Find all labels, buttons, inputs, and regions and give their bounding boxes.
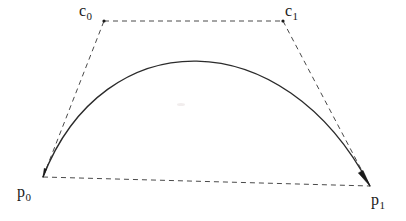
bezier-diagram-svg — [0, 0, 406, 221]
control-point-c0-dot — [102, 19, 105, 22]
label-p0-subscript: 0 — [26, 191, 32, 203]
polygon-segment-c1-p1 — [283, 21, 370, 186]
label-c1-subscript: 1 — [293, 10, 299, 22]
label-c0: c0 — [79, 3, 92, 19]
bezier-curve — [43, 61, 370, 186]
scan-artifact-speck — [177, 103, 185, 106]
arrowhead-at-p1 — [358, 170, 370, 186]
bezier-figure: c0 c1 p0 p1 — [0, 0, 406, 221]
label-c1-base: c — [285, 2, 292, 19]
label-c0-subscript: 0 — [87, 10, 93, 22]
polygon-segment-p0-p1 — [43, 177, 370, 186]
arrowhead-at-p0 — [43, 168, 47, 177]
label-p0: p0 — [17, 184, 31, 200]
control-point-c1-dot — [281, 19, 284, 22]
label-c0-base: c — [79, 2, 86, 19]
label-c1: c1 — [285, 3, 298, 19]
label-p0-base: p — [17, 183, 25, 200]
label-p1-base: p — [371, 191, 379, 208]
label-p1-subscript: 1 — [380, 199, 386, 211]
label-p1: p1 — [371, 192, 385, 208]
